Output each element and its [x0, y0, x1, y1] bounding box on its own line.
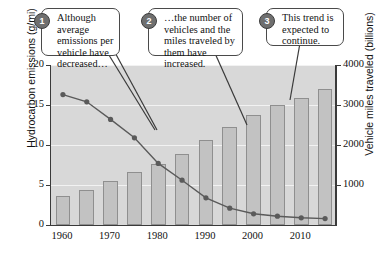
y-axis-left-tick-label: 20: [18, 58, 44, 69]
y-axis-left-tick-mark: [46, 225, 51, 226]
data-point: [227, 206, 232, 211]
x-axis-tick-label: 2010: [280, 230, 320, 241]
data-point: [322, 216, 327, 221]
x-axis-tick-label: 1970: [90, 230, 130, 241]
y-axis-right-tick-label: 2000: [343, 138, 377, 149]
callout-3-text: This trend is expected to continue.: [282, 12, 333, 46]
data-point: [156, 161, 161, 166]
callout-2-badge: 2: [141, 13, 157, 29]
callout-3[interactable]: 3 This trend is expected to continue.: [266, 8, 344, 46]
y-axis-right-tick-mark: [336, 105, 341, 106]
y-axis-right-tick-label: 4000: [343, 58, 377, 69]
y-axis-left-tick-mark: [46, 145, 51, 146]
x-axis-tick-label: 2000: [233, 230, 273, 241]
data-point: [84, 99, 89, 104]
chart-root: Hydrocarbon emissions (g/mi) Vehicle mil…: [0, 0, 386, 259]
y-axis-left-tick-mark: [46, 185, 51, 186]
y-axis-left-tick-mark: [46, 105, 51, 106]
data-point: [299, 215, 304, 220]
callout-2-text: …the number of vehicles and the miles tr…: [164, 12, 235, 69]
callout-2[interactable]: 2 …the number of vehicles and the miles …: [148, 8, 243, 56]
data-point: [108, 117, 113, 122]
y-axis-right-tick-mark: [336, 145, 341, 146]
y-axis-left-tick-label: 10: [18, 138, 44, 149]
plot-area: [50, 65, 337, 225]
data-point: [251, 211, 256, 216]
line-path: [63, 95, 325, 219]
y-axis-left-tick-label: 15: [18, 98, 44, 109]
callout-1[interactable]: 1 Although average emissions per vehicle…: [41, 8, 120, 56]
y-axis-right-tick-mark: [336, 185, 341, 186]
callout-1-text: Although average emissions per vehicle h…: [57, 12, 113, 69]
data-point: [179, 178, 184, 183]
data-point: [275, 214, 280, 219]
x-axis-tick-label: 1980: [137, 230, 177, 241]
data-point: [60, 92, 65, 97]
line-series: [51, 65, 337, 225]
y-axis-right-tick-label: 1000: [343, 178, 377, 189]
y-axis-right-tick-mark: [336, 65, 341, 66]
x-axis-tick-label: 1990: [185, 230, 225, 241]
callout-3-badge: 3: [259, 13, 275, 29]
y-axis-left-tick-label: 0: [18, 218, 44, 229]
y-axis-right-tick-label: 3000: [343, 98, 377, 109]
y-axis-left-tick-label: 5: [18, 178, 44, 189]
data-point: [132, 135, 137, 140]
data-point: [203, 195, 208, 200]
y-axis-left-tick-mark: [46, 65, 51, 66]
callout-1-badge: 1: [34, 13, 50, 29]
x-axis-tick-label: 1960: [42, 230, 82, 241]
x-axis-line: [50, 225, 337, 227]
